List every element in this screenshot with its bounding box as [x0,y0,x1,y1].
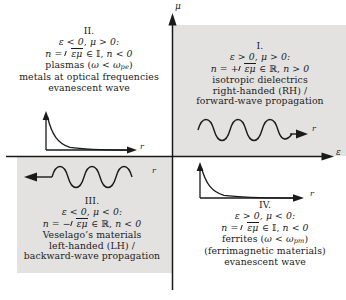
epsilon-axis-label: ε [336,147,341,157]
quadrant-4-omega: ω [264,233,272,244]
quadrant-4-desc1-post: ) [304,233,308,244]
quadrant-3-text-block: III. ε < 0, μ < 0: n = −εμ ∈ ℝ, n < 0 Ve… [12,196,172,262]
quadrant-3-desc-3: backward-wave propagation [12,251,172,262]
quadrant-1-desc-1: isotropic dielectrics [180,75,340,86]
quadrant-1-inset-r-label: r [312,124,316,133]
quadrant-2-desc1-pre: plasmas ( [45,59,91,70]
quadrant-2-index-set: ∈ 𝕀, [86,48,104,59]
quadrant-2-desc-3: evanescent wave [10,83,168,94]
quadrant-4-index-set: ∈ 𝕀, [262,222,280,233]
quadrant-2-desc1-post: ) [129,59,133,70]
quadrant-1-sqrt: εμ [239,63,256,75]
quadrant-4-desc1-mid: < [272,233,286,244]
quadrant-4-inset-evanescent-decay [192,161,317,205]
quadrant-3-sqrt: εμ [71,218,88,230]
epsilon-mu-quadrant-diagram: μ ε II. ε < 0, μ > 0: n = εμ ∈ 𝕀, n < 0 … [0,0,346,300]
quadrant-2-desc1-mid: < [99,59,113,70]
quadrant-1-index-sign: n > 0 [283,63,309,74]
quadrant-4-index-sign: n < 0 [283,222,309,233]
quadrant-2-desc-2: metals at optical frequencies [10,72,168,83]
quadrant-3-desc-1: Veselago’s materials [12,230,172,241]
quadrant-4-condition: ε > 0, μ < 0: [186,211,344,222]
quadrant-1-index-set: ∈ ℝ, [259,63,280,74]
quadrant-2-text-block: II. ε < 0, μ > 0: n = εμ ∈ 𝕀, n < 0 plas… [10,26,168,94]
quadrant-2-desc-1: plasmas (ω < ωpe) [10,60,168,72]
quadrant-2-inset-r-label: r [140,142,144,151]
quadrant-4-omega-subscript: pm [294,237,305,245]
quadrant-4-desc-2: (ferrimagnetic materials) [186,246,344,257]
quadrant-1-inset-forward-wave [196,112,318,146]
quadrant-2-omega-plasma: ω [113,59,121,70]
quadrant-1-text-block: I. ε > 0, μ > 0: n = +εμ ∈ ℝ, n > 0 isot… [180,41,340,107]
quadrant-4-radicand: εμ [247,222,259,234]
quadrant-4-desc-3: evanescent wave [186,257,344,268]
quadrant-3-index-prefix: n = − [43,218,71,229]
quadrant-2-index-sign: n < 0 [107,48,133,59]
quadrant-3-inset-backward-wave [22,160,150,194]
quadrant-4-inset-r-label: r [310,189,314,198]
q1-wave-path [198,120,292,141]
quadrant-4-index-prefix: n = [221,222,241,233]
q2-inset-decay-curve [48,117,129,150]
mu-axis-label: μ [175,1,181,11]
quadrant-2-omega-subscript: pe [121,63,129,71]
quadrant-1-condition: ε > 0, μ > 0: [180,52,340,63]
quadrant-1-index-prefix: n = + [211,63,239,74]
quadrant-3-radicand: εμ [76,218,88,230]
quadrant-4-text-block: IV. ε > 0, μ < 0: n = εμ ∈ 𝕀, n < 0 ferr… [186,200,344,268]
quadrant-3-inset-r-label: r [152,166,156,175]
quadrant-4-desc1-pre: ferrites ( [222,233,264,244]
q1-wave-arrowhead [296,130,308,139]
quadrant-2-sqrt: εμ [65,48,82,60]
quadrant-1-index-formula: n = +εμ ∈ ℝ, n > 0 [180,63,340,75]
quadrant-2-condition: ε < 0, μ > 0: [10,37,168,48]
quadrant-2-radicand: εμ [71,48,83,60]
quadrant-4-desc-1: ferrites (ω < ωpm) [186,234,344,246]
quadrant-3-index-formula: n = −εμ ∈ ℝ, n < 0 [12,218,172,230]
quadrant-1-desc-3: forward-wave propagation [180,96,340,107]
quadrant-3-condition: ε < 0, μ < 0: [12,207,172,218]
quadrant-2-inset-evanescent-decay [38,108,143,156]
quadrant-2-index-prefix: n = [45,48,65,59]
q4-inset-decay-curve [202,168,295,198]
q3-wave-path [52,167,132,188]
quadrant-3-index-sign: n < 0 [115,218,141,229]
quadrant-4-omega-plasma: ω [286,233,294,244]
mu-axis-arrowhead [168,13,176,26]
quadrant-3-index-set: ∈ ℝ, [91,218,112,229]
epsilon-axis-arrowhead [322,152,335,160]
quadrant-1-radicand: εμ [244,63,256,75]
q2-inset-x-arrowhead [127,147,137,154]
quadrant-2-omega: ω [91,59,99,70]
quadrant-4-sqrt: εμ [241,222,258,234]
